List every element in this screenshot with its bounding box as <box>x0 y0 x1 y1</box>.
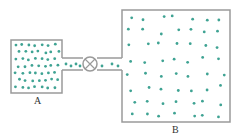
molecule <box>41 57 44 60</box>
molecule <box>34 72 37 75</box>
molecule <box>160 33 163 36</box>
container-b <box>122 10 230 122</box>
molecule <box>14 71 17 74</box>
molecule <box>217 57 220 60</box>
molecule <box>20 43 23 46</box>
molecule <box>17 65 20 68</box>
molecule <box>46 87 49 90</box>
molecule <box>206 73 209 76</box>
molecule <box>223 74 226 77</box>
molecule <box>46 58 49 61</box>
molecule <box>50 78 53 81</box>
molecule <box>129 60 132 63</box>
molecule <box>146 113 149 116</box>
molecule <box>160 75 163 78</box>
molecule <box>173 112 176 115</box>
molecule <box>27 87 30 90</box>
molecule <box>65 63 68 66</box>
molecule <box>36 50 39 53</box>
molecule <box>203 31 206 34</box>
molecule <box>204 44 207 47</box>
molecule <box>31 64 34 67</box>
molecule <box>31 80 34 83</box>
molecule <box>201 56 204 59</box>
molecule <box>70 65 73 68</box>
molecule <box>41 43 44 46</box>
molecule <box>171 15 174 18</box>
molecule <box>175 100 178 103</box>
molecule <box>53 71 56 74</box>
molecule <box>34 57 37 60</box>
diagram-canvas <box>0 0 238 137</box>
molecule <box>129 89 132 92</box>
molecule <box>56 78 59 81</box>
molecule <box>190 28 193 31</box>
molecule <box>148 86 151 89</box>
molecule <box>206 89 209 92</box>
molecule <box>21 86 24 89</box>
molecule <box>18 50 21 53</box>
molecule <box>161 59 164 62</box>
molecule <box>58 50 61 53</box>
molecule <box>15 44 18 47</box>
molecule <box>127 43 130 46</box>
molecule <box>75 63 78 66</box>
molecule <box>24 50 27 53</box>
molecule <box>31 51 34 54</box>
molecule <box>131 113 134 116</box>
molecule <box>44 52 47 55</box>
molecule <box>193 115 196 118</box>
label-b: B <box>172 124 179 135</box>
molecule <box>130 16 133 19</box>
molecule <box>186 61 189 64</box>
molecule <box>47 44 50 47</box>
molecule <box>206 19 209 22</box>
molecule <box>217 116 220 119</box>
molecule <box>147 42 150 45</box>
molecule <box>201 100 204 103</box>
molecule <box>217 19 220 22</box>
molecule <box>141 28 144 31</box>
molecule <box>21 57 24 60</box>
molecule <box>126 73 129 76</box>
molecule <box>49 50 52 53</box>
molecule <box>157 42 160 45</box>
molecule <box>33 44 36 47</box>
molecule <box>44 65 47 68</box>
molecule <box>157 115 160 118</box>
molecule <box>187 75 190 78</box>
molecule <box>101 65 104 68</box>
molecule <box>21 72 24 75</box>
molecule <box>142 18 145 21</box>
molecule <box>27 44 30 47</box>
molecule <box>219 104 222 107</box>
molecule <box>111 63 114 66</box>
molecule <box>54 43 57 46</box>
molecule <box>38 79 41 82</box>
molecule <box>133 101 136 104</box>
molecule <box>37 64 40 67</box>
molecule <box>190 90 193 93</box>
molecule <box>216 30 219 33</box>
molecule <box>177 89 180 92</box>
molecule <box>53 57 56 60</box>
molecule <box>216 46 219 49</box>
molecule <box>127 28 130 31</box>
molecule <box>18 78 21 81</box>
molecule <box>14 85 17 88</box>
molecule <box>24 65 27 68</box>
molecule <box>47 71 50 74</box>
molecule <box>14 58 17 61</box>
molecule <box>29 71 32 74</box>
molecule <box>173 58 176 61</box>
molecule <box>117 65 120 68</box>
molecule <box>219 84 222 87</box>
molecule <box>24 79 27 82</box>
molecule <box>27 59 30 62</box>
molecule <box>54 86 57 89</box>
molecule <box>175 72 178 75</box>
molecule <box>176 42 179 45</box>
molecule <box>33 85 36 88</box>
molecule <box>79 65 82 68</box>
molecule <box>177 28 180 31</box>
